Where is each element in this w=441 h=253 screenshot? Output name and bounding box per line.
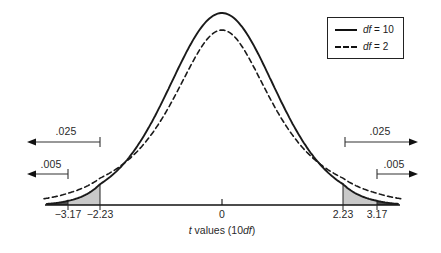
tick-label-neg-3-17: −3.17 [55,208,82,220]
right-005-arrow-head-icon [409,170,418,177]
x-axis-title-mid: values (10 [192,224,243,236]
legend-df2-suffix: = 2 [371,41,388,52]
x-axis-title: t values (10df) [189,224,256,236]
left-005-arrow-head-icon [27,170,36,177]
legend-item-df10: df = 10 [335,24,397,35]
right-tail-025-label: .025 [369,125,390,137]
right-tail-005-label: .005 [383,158,404,170]
legend-df10-suffix: = 10 [371,24,394,35]
dashed-line-swatch [335,46,357,48]
left-025-arrow-head-icon [27,138,36,145]
legend-label-df2: df = 2 [363,41,388,52]
left-tail-025-label: .025 [55,125,76,137]
tick-label-neg-2-23: −2.23 [87,208,114,220]
x-axis-title-df: df [243,224,252,236]
tick-label-3-17: 3.17 [367,208,387,220]
tick-label-zero: 0 [219,208,225,220]
legend-item-df2: df = 2 [335,41,397,52]
left-tail-005-label: .005 [40,158,61,170]
legend-label-df10: df = 10 [363,24,394,35]
tick-label-2-23: 2.23 [333,208,353,220]
legend: df = 10 df = 2 [327,17,404,59]
x-axis-title-end: ) [252,224,256,236]
solid-line-swatch [335,29,357,31]
right-025-arrow-head-icon [409,138,418,145]
t-distribution-figure: .025 .005 .025 .005 −3.17 −2.23 0 2.23 3… [0,0,441,253]
